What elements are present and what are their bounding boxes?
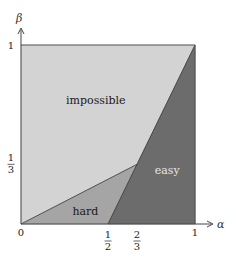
fraction-denominator: 3 [8,164,14,175]
x-axis-name: α [217,218,225,231]
y-tick-fraction: 13 [8,152,15,175]
fraction-numerator: 2 [134,229,140,240]
y-axis-name: β [15,12,22,25]
fraction-denominator: 3 [134,241,140,252]
region-label-easy: easy [155,164,181,177]
regions-layer [21,45,195,224]
phase-diagram: α β 012231113 impossiblehardeasy [0,0,236,257]
x-tick-fraction: 12 [105,229,112,252]
region-label-hard: hard [72,205,98,218]
fraction-numerator: 1 [105,229,111,240]
fraction-numerator: 1 [8,152,14,163]
y-tick-label: 1 [8,40,14,51]
x-tick-fraction: 23 [134,229,141,252]
fraction-denominator: 2 [105,241,111,252]
region-label-impossible: impossible [66,94,126,107]
x-tick-label: 1 [192,227,198,238]
x-tick-label: 0 [18,227,24,238]
